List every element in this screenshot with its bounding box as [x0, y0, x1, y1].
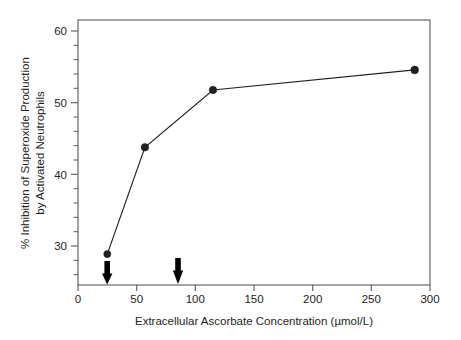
x-tick-label: 300 [420, 293, 439, 305]
y-tick-label: 60 [54, 25, 67, 37]
annotation-arrows [102, 258, 183, 285]
y-tick-label: 40 [54, 169, 67, 181]
y-tick-label: 50 [54, 97, 67, 109]
y-axis-title-line1: % Inhibition of Superoxide Production [19, 57, 31, 249]
series-line [107, 70, 414, 254]
plot-frame [78, 20, 430, 285]
x-tick-label: 0 [75, 293, 81, 305]
y-axis-title-line2: by Activated Neutrophils [34, 91, 46, 215]
data-point-marker [104, 251, 111, 258]
x-tick-label: 50 [130, 293, 143, 305]
arrow-down-icon [173, 258, 183, 284]
x-tick-label: 200 [303, 293, 322, 305]
x-tick-label: 150 [244, 293, 263, 305]
arrow-down-icon [102, 261, 112, 285]
data-point-marker [209, 86, 217, 94]
y-axis-minor-ticks [74, 45, 79, 274]
y-axis-title: % Inhibition of Superoxide Production by… [19, 57, 46, 249]
x-axis-ticks [78, 285, 430, 291]
x-tick-label: 100 [186, 293, 205, 305]
y-tick-labels: 60 50 40 30 [54, 25, 67, 252]
x-axis-title: Extracellular Ascorbate Concentration (µ… [135, 315, 373, 327]
y-tick-label: 30 [54, 240, 67, 252]
data-series [104, 66, 419, 258]
figure-container: 60 50 40 30 0 50 100 150 200 250 300 [0, 0, 461, 340]
y-axis-ticks [71, 31, 78, 246]
line-chart: 60 50 40 30 0 50 100 150 200 250 300 [0, 0, 461, 340]
x-tick-labels: 0 50 100 150 200 250 300 [75, 293, 440, 305]
x-tick-label: 250 [362, 293, 381, 305]
data-point-marker [141, 144, 149, 152]
data-point-marker [411, 66, 419, 74]
